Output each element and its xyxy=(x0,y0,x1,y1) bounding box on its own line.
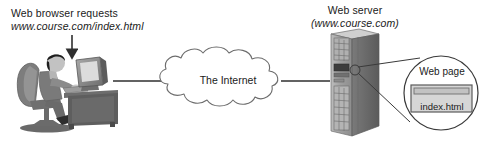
internet-cloud-label: The Internet xyxy=(160,74,296,86)
client-illustration xyxy=(17,54,118,133)
server-floppy-drive xyxy=(334,73,349,77)
web-page-callout-title: Web page xyxy=(409,66,475,77)
server-optical-drive xyxy=(334,64,349,71)
desk-drawer-panel xyxy=(72,96,114,123)
diagram-canvas: Web browser requests www.course.com/inde… xyxy=(0,0,487,141)
desk-leg-right xyxy=(110,122,115,127)
desk-leg-left xyxy=(69,124,74,129)
monitor-screen xyxy=(80,61,99,82)
server-vent-grid-bottom xyxy=(334,86,349,131)
server-front-panel xyxy=(334,79,344,82)
server-side-face xyxy=(352,34,379,136)
web-page-file-name: index.html xyxy=(411,101,473,112)
chair-post xyxy=(44,108,49,121)
server-illustration xyxy=(331,29,379,136)
chair-base xyxy=(31,120,62,126)
server-vent-grid-top xyxy=(334,38,349,61)
web-page-window-titlebar xyxy=(414,88,469,94)
